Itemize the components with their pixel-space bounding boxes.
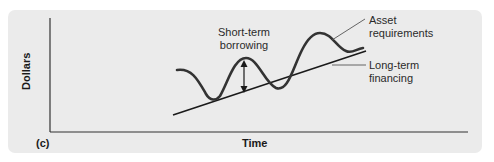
asset-line-2: requirements <box>369 27 433 40</box>
asset-requirements-label: Asset requirements <box>369 14 433 40</box>
x-axis-label: Time <box>242 137 267 150</box>
short-term-borrowing-label: Short-term borrowing <box>208 26 280 52</box>
asset-line-1: Asset <box>369 14 433 27</box>
asset-requirements-leader <box>332 19 365 40</box>
short-term-line-2: borrowing <box>208 39 280 52</box>
y-axis-label: Dollars <box>20 53 32 90</box>
panel-label: (c) <box>36 137 49 150</box>
short-term-line-1: Short-term <box>208 26 280 39</box>
long-term-line-1: Long-term <box>369 59 419 72</box>
long-term-financing-label: Long-term financing <box>369 59 419 85</box>
short-term-borrowing-arrow-icon <box>241 60 248 93</box>
long-term-line-2: financing <box>369 72 419 85</box>
